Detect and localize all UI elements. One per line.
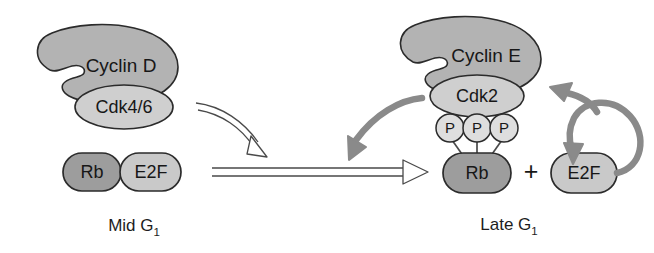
cyclin-d-label: Cyclin D	[86, 55, 157, 76]
e2f-label-left: E2F	[134, 162, 167, 182]
phosphate-label-2: P	[472, 119, 482, 136]
arrow-cyclin-e-to-left	[348, 98, 422, 160]
stage-label-mid-g1-text: Mid G	[108, 216, 153, 235]
arrow-cyclind-to-rb-line-outer	[196, 103, 258, 142]
cdk2-node[interactable]: Cdk2	[430, 75, 524, 117]
rb-label-right: Rb	[465, 163, 488, 183]
rb-node-right[interactable]: Rb	[443, 153, 511, 193]
e2f-label-right: E2F	[567, 163, 600, 183]
panel-late-g1: Cyclin E Cdk2 P P	[400, 17, 617, 237]
cyclin-e-label: Cyclin E	[451, 45, 521, 66]
e2f-node-right[interactable]: E2F	[551, 153, 617, 193]
rb-node-left[interactable]: Rb	[63, 153, 121, 191]
stage-label-late-g1-text: Late G	[480, 215, 531, 234]
stage-label-late-g1-subscript: 1	[531, 225, 537, 237]
cdk4-6-node[interactable]: Cdk4/6	[75, 85, 173, 129]
phosphate-label-3: P	[499, 119, 509, 136]
arrow-mid-to-late-lines	[212, 168, 406, 176]
cdk4-6-label: Cdk4/6	[95, 97, 152, 117]
phosphate-label-1: P	[445, 119, 455, 136]
diagram-canvas: Cyclin D Cdk4/6 Rb E2F Mid G1	[0, 0, 654, 253]
arrow-cyclind-to-rb-head	[247, 136, 267, 157]
cdk2-label: Cdk2	[456, 86, 498, 106]
phosphate-group-1[interactable]: P	[436, 114, 464, 142]
panel-mid-g1: Cyclin D Cdk4/6 Rb E2F Mid G1	[37, 25, 181, 238]
rb-label-left: Rb	[80, 162, 103, 182]
arrow-cyclin-e-to-left-line	[356, 98, 422, 140]
phosphate-group-3[interactable]: P	[490, 114, 518, 142]
stage-label-mid-g1: Mid G1	[108, 216, 160, 238]
stage-label-late-g1: Late G1	[480, 215, 537, 237]
cell-cycle-diagram: Cyclin D Cdk4/6 Rb E2F Mid G1	[0, 0, 654, 253]
phosphate-group-2[interactable]: P	[463, 114, 491, 142]
stage-label-mid-g1-subscript: 1	[153, 226, 159, 238]
e2f-node-left[interactable]: E2F	[120, 153, 181, 191]
arrow-cyclind-to-rb	[196, 103, 267, 157]
arrow-mid-to-late	[212, 160, 428, 184]
arrow-cyclind-to-rb-line-inner	[198, 110, 253, 146]
plus-sign: +	[524, 157, 539, 185]
arrow-e2f-feedback-up-head	[550, 83, 572, 101]
arrow-mid-to-late-head	[403, 160, 428, 184]
